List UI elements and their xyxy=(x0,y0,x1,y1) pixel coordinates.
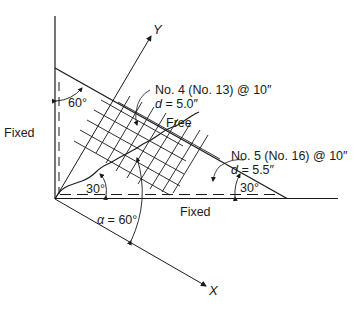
x-axis-label: X xyxy=(209,284,218,297)
angle-origin-label: 30° xyxy=(86,183,105,196)
angle-right-label: 30° xyxy=(240,182,259,195)
rebar-bottom-depth: d = 5.5″ xyxy=(231,163,347,177)
fixed-bottom-label: Fixed xyxy=(180,206,211,219)
alpha-angle-label: α = 60° xyxy=(97,214,137,227)
y-axis-label: Y xyxy=(153,23,162,36)
rebar-bottom-label: No. 5 (No. 16) @ 10″ d = 5.5″ xyxy=(231,149,347,177)
fixed-left-label: Fixed xyxy=(4,127,35,140)
alpha-value: = 60° xyxy=(104,213,137,227)
rebar-top-depth: d = 5.0″ xyxy=(155,97,271,111)
rebar-top-spec: No. 4 (No. 13) @ 10″ xyxy=(155,83,271,97)
angle-top-label: 60° xyxy=(68,97,87,110)
rebar-bottom-spec: No. 5 (No. 16) @ 10″ xyxy=(231,149,347,163)
y-axis xyxy=(55,36,151,199)
rebar-top-label: No. 4 (No. 13) @ 10″ d = 5.0″ xyxy=(155,83,271,111)
free-edge-label: Free xyxy=(166,117,192,130)
angle-arc-alpha xyxy=(131,158,142,241)
